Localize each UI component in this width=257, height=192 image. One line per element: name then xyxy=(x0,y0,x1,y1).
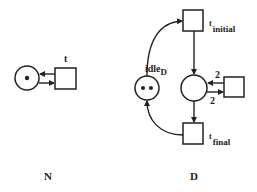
net-d-caption: D xyxy=(190,170,198,182)
token-icon xyxy=(141,86,145,90)
token-icon xyxy=(25,76,29,80)
transition-t-final xyxy=(183,123,203,144)
net-n xyxy=(15,66,76,90)
arc-weight-in: 2 xyxy=(215,69,220,80)
t-final-label: tfinal xyxy=(209,125,230,143)
t-initial-label: tinitial xyxy=(209,12,235,30)
idle-d-label: idleD xyxy=(145,58,167,76)
transition-t xyxy=(55,68,76,89)
transition-side xyxy=(224,77,244,97)
place-center xyxy=(181,75,207,101)
net-n-caption: N xyxy=(44,170,52,182)
arc-weight-out: 2 xyxy=(210,95,215,106)
transition-t-label: t xyxy=(64,53,67,64)
transition-t-initial xyxy=(183,10,203,31)
place-idle-d xyxy=(135,76,159,100)
token-icon xyxy=(149,86,153,90)
arc-t-final-to-idle xyxy=(147,101,183,135)
